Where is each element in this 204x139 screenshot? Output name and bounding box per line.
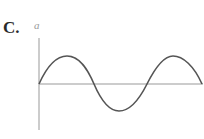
sine-graph (0, 0, 204, 139)
